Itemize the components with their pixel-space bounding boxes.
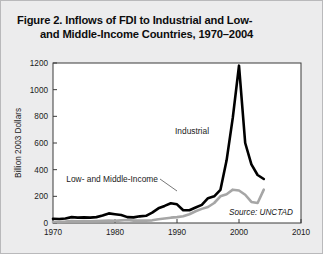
y-axis-tick-labels: 020040060080010001200 (30, 59, 49, 228)
industrial-series-label: Industrial (175, 126, 209, 136)
y-axis-tick-label: 600 (34, 139, 48, 148)
y-axis-tick-label: 800 (34, 112, 48, 121)
source-note: Source: UNCTAD (229, 208, 293, 217)
fdi-inflows-line-chart: 020040060080010001200 197019801990200020… (1, 1, 323, 254)
x-axis-tick-label: 2010 (292, 228, 311, 237)
y-axis-tick-label: 1000 (30, 86, 49, 95)
y-axis-title: Billion 2003 Dollars (14, 108, 23, 178)
y-axis-tick-label: 0 (43, 219, 48, 228)
low-and-middle-income-series-label: Low- and Middle-Income (66, 174, 158, 184)
x-axis-tick-label: 1990 (168, 228, 187, 237)
x-axis-tick-labels: 19701980199020002010 (44, 228, 311, 237)
y-axis-tick-label: 200 (34, 192, 48, 201)
x-axis-tick-label: 2000 (230, 228, 249, 237)
figure-container: Figure 2. Inflows of FDI to Industrial a… (0, 0, 323, 254)
y-axis-tick-label: 400 (34, 166, 48, 175)
x-axis-tick-label: 1980 (106, 228, 125, 237)
x-axis-tick-label: 1970 (44, 228, 63, 237)
plot-area-background (53, 63, 301, 223)
y-axis-tick-label: 1200 (30, 59, 49, 68)
